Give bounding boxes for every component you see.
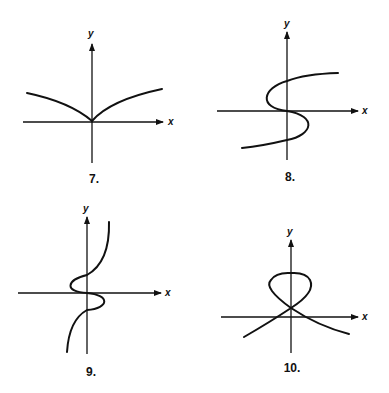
- curve: [244, 273, 349, 337]
- graph-10: x y 10.: [221, 226, 368, 375]
- graphs-figure: x y 7. x y 8. x y 9. x y 10.: [0, 0, 389, 393]
- figure-number: 8.: [285, 170, 295, 184]
- graph-7: x y 7.: [23, 28, 174, 186]
- x-axis-label: x: [361, 311, 368, 322]
- graph-9: x y 9.: [18, 203, 171, 379]
- y-axis-label: y: [286, 226, 293, 237]
- figure-number: 10.: [284, 361, 301, 375]
- curve: [27, 89, 162, 121]
- x-axis-label: x: [361, 105, 368, 116]
- x-axis-label: x: [164, 287, 171, 298]
- y-axis-label: y: [283, 18, 290, 29]
- curve: [67, 222, 109, 352]
- figure-number: 9.: [86, 365, 96, 379]
- graph-8: x y 8.: [217, 18, 368, 184]
- x-axis-label: x: [167, 116, 174, 127]
- y-axis-label: y: [87, 28, 94, 39]
- y-axis-label: y: [82, 203, 89, 214]
- figure-number: 7.: [89, 172, 99, 186]
